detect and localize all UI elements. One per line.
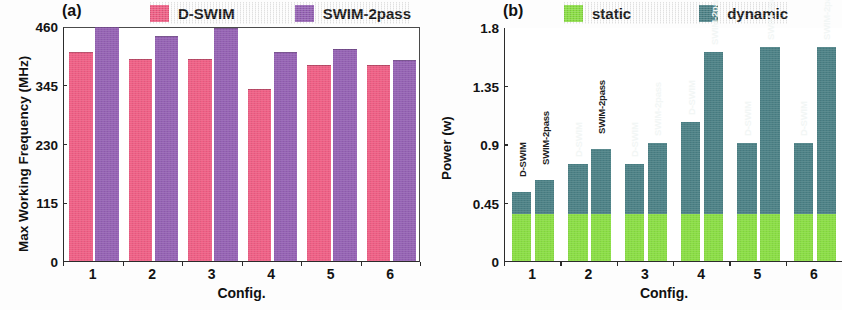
panel-a-bar-d-swim-config-3[interactable]	[188, 59, 212, 261]
panel-a-bar-d-swim-config-5[interactable]	[307, 65, 331, 261]
panel-b-tag: (b)	[503, 2, 523, 20]
panel-b-y-tick-1.8: 1.8	[451, 21, 499, 36]
panel-a-bar-swim-2pass-config-1[interactable]	[95, 27, 119, 261]
panel-a-bar-group-5	[307, 28, 357, 261]
panel-a-x-tick-mark	[361, 262, 362, 266]
panel-a-bar-d-swim-config-4[interactable]	[248, 89, 272, 261]
panel-b-bar-d-swim-config-4[interactable]: D-SWIM	[681, 122, 701, 261]
panel-b-x-tick-mark	[560, 262, 561, 266]
panel-a-bar-swim-2pass-config-2[interactable]	[155, 36, 179, 261]
panel-a-bar-group-2	[129, 28, 179, 261]
panel-b-x-axis-label: Config.	[504, 285, 824, 301]
panel-b-bar-d-swim-config-1[interactable]: D-SWIM	[512, 192, 532, 261]
panel-b-segment-dynamic	[817, 47, 837, 215]
panel-a-bar-group-4	[248, 28, 298, 261]
panel-b-segment-static	[760, 214, 780, 261]
panel-b-bar-label-config-2-swim-2pass: SWIM-2pass	[596, 80, 607, 134]
panel-b-y-tick-1.35: 1.35	[451, 79, 499, 94]
panel-b-bar-swim-2pass-config-3[interactable]: SWIM-2pass	[648, 143, 668, 261]
panel-b-bar-swim-2pass-config-6[interactable]: SWIM-2pass	[817, 47, 837, 262]
panel-b-bar-label-config-6-d-swim: D-SWIM	[798, 101, 809, 136]
panel-b-segment-dynamic	[760, 47, 780, 215]
panel-b-segment-dynamic	[648, 143, 668, 215]
panel-b-bar-d-swim-config-5[interactable]: D-SWIM	[737, 143, 757, 261]
panel-a-x-tick-6: 6	[386, 266, 394, 282]
legend-label-dynamic: dynamic	[727, 5, 788, 22]
panel-b-segment-static	[794, 214, 814, 261]
panel-b-x-tick-6: 6	[810, 266, 818, 282]
panel-b-x-tick-4: 4	[697, 266, 705, 282]
panel-b-bar-swim-2pass-config-4[interactable]: SWIM-2pass	[704, 52, 724, 261]
legend-swatch-swim-2pass	[295, 5, 314, 22]
panel-b-x-tick-mark	[729, 262, 730, 266]
panel-a-x-tick-mark	[301, 262, 302, 266]
panel-b: (b) static dynamic Power (w) D-SWIMSWIM-…	[421, 0, 842, 310]
panel-a-bar-d-swim-config-1[interactable]	[69, 52, 93, 261]
panel-b-segment-static	[737, 214, 757, 261]
panel-b-x-tick-mark	[617, 262, 618, 266]
panel-b-segment-static	[568, 214, 588, 261]
panel-b-bar-label-config-5-d-swim: D-SWIM	[742, 101, 753, 136]
legend-swatch-static	[564, 5, 583, 22]
panel-a-bar-d-swim-config-6[interactable]	[367, 65, 391, 261]
panel-a-bar-d-swim-config-2[interactable]	[129, 59, 153, 261]
panel-a-x-tick-4: 4	[267, 266, 275, 282]
panel-a-bar-swim-2pass-config-3[interactable]	[214, 28, 238, 261]
panel-b-segment-dynamic	[794, 143, 814, 215]
panel-b-x-tick-5: 5	[754, 266, 762, 282]
panel-b-y-tick-mark	[504, 203, 508, 204]
panel-a-y-tick-115: 115	[16, 196, 58, 211]
panel-a-bars	[64, 28, 419, 261]
panel-b-bars: D-SWIMSWIM-2passD-SWIMSWIM-2passD-SWIMSW…	[505, 28, 842, 261]
panel-a-y-tick-mark	[63, 144, 67, 145]
panel-b-x-tick-1: 1	[528, 266, 536, 282]
panel-a-y-tick-mark	[63, 85, 67, 86]
panel-b-bar-d-swim-config-3[interactable]: D-SWIM	[625, 164, 645, 262]
panel-b-segment-static	[535, 214, 555, 261]
panel-b-y-tick-0.45: 0.45	[451, 196, 499, 211]
panel-b-x-tick-mark	[673, 262, 674, 266]
panel-b-bar-swim-2pass-config-5[interactable]: SWIM-2pass	[760, 47, 780, 262]
legend-label-d-swim: D-SWIM	[178, 5, 235, 22]
panel-b-bar-swim-2pass-config-1[interactable]: SWIM-2pass	[535, 180, 555, 261]
panel-b-segment-static	[704, 214, 724, 261]
panel-b-segment-static	[648, 214, 668, 261]
panel-b-bar-label-config-4-d-swim: D-SWIM	[685, 80, 696, 115]
panel-a-x-tick-5: 5	[327, 266, 335, 282]
panel-b-bar-label-config-3-swim-2pass: SWIM-2pass	[652, 82, 663, 136]
panel-a-bar-group-6	[367, 28, 417, 261]
legend-entry-d-swim: D-SWIM	[150, 5, 235, 22]
panel-b-segment-static	[681, 214, 701, 261]
legend-entry-static: static	[564, 5, 631, 22]
panel-a-bar-swim-2pass-config-6[interactable]	[393, 60, 417, 261]
panel-b-segment-static	[591, 214, 611, 261]
panel-a-x-axis-label: Config.	[63, 285, 420, 301]
panel-b-segment-dynamic	[681, 122, 701, 214]
panel-a-x-tick-2: 2	[148, 266, 156, 282]
panel-a-legend: D-SWIM SWIM-2pass	[150, 2, 411, 24]
panel-b-x-tick-mark	[786, 262, 787, 266]
panel-b-y-tick-0.9: 0.9	[451, 138, 499, 153]
panel-a-tag: (a)	[62, 2, 82, 20]
panel-b-bar-d-swim-config-6[interactable]: D-SWIM	[794, 143, 814, 261]
panel-a-x-tick-mark	[63, 262, 64, 266]
panel-b-x-tick-2: 2	[585, 266, 593, 282]
panel-b-segment-static	[625, 214, 645, 261]
panel-b-segment-dynamic	[535, 180, 555, 214]
panel-a-y-tick-345: 345	[16, 78, 58, 93]
figure-root: (a) D-SWIM SWIM-2pass Max Working Freque…	[0, 0, 842, 310]
panel-b-y-tick-mark	[504, 144, 508, 145]
panel-b-y-tick-0: 0	[451, 255, 499, 270]
panel-b-bar-swim-2pass-config-2[interactable]: SWIM-2pass	[591, 149, 611, 261]
panel-a-x-tick-1: 1	[89, 266, 97, 282]
panel-b-bar-d-swim-config-2[interactable]: D-SWIM	[568, 164, 588, 262]
panel-b-y-tick-mark	[504, 86, 508, 87]
panel-b-bar-label-config-4-swim-2pass: SWIM-2pass	[708, 0, 719, 45]
panel-a-y-tick-230: 230	[16, 137, 58, 152]
panel-b-bar-label-config-1-d-swim: D-SWIM	[516, 142, 527, 177]
panel-b-bar-label-config-1-swim-2pass: SWIM-2pass	[539, 111, 550, 165]
legend-swatch-d-swim	[150, 5, 169, 22]
panel-b-segment-dynamic	[704, 52, 724, 215]
panel-a-bar-swim-2pass-config-4[interactable]	[274, 52, 298, 261]
panel-a-bar-swim-2pass-config-5[interactable]	[333, 49, 357, 261]
